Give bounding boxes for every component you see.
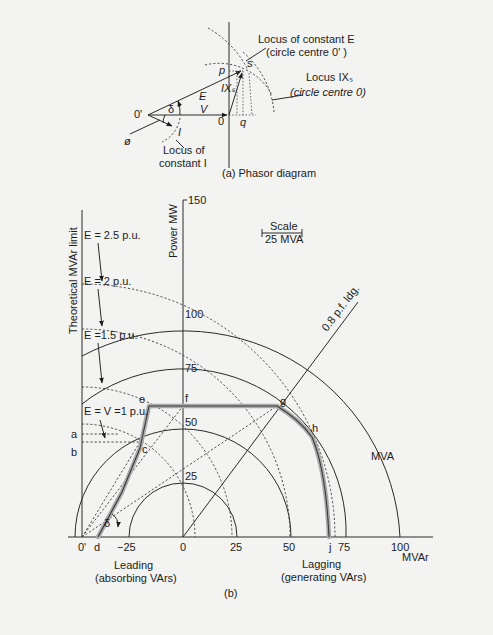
theoretical-limit-label: Theoretical MVAr limit xyxy=(67,227,79,334)
e-arrow-1.5 xyxy=(98,343,102,383)
e-arrow-2 xyxy=(98,289,102,326)
phasor-diagram: 0' 0 ø δ E V I IXₛ p q s Locus of consta… xyxy=(124,22,366,179)
label-e: E xyxy=(199,90,207,102)
label-v: V xyxy=(200,103,209,115)
y-axis-label: Power MW xyxy=(167,204,179,258)
caption-a: (a) Phasor diagram xyxy=(222,167,316,179)
mva-label: MVA xyxy=(371,450,395,462)
mva-circle-100 xyxy=(82,331,400,537)
point-a: a xyxy=(71,428,78,440)
delta-arc-b xyxy=(112,514,118,527)
x-tick-minus25: −25 xyxy=(117,541,136,553)
e-label-2.5: E = 2.5 p.u. xyxy=(84,229,141,241)
e-label-1: E = V =1 p.u. xyxy=(84,405,148,417)
locus-i-label-2: constant I xyxy=(159,157,207,169)
point-g: g xyxy=(280,395,286,407)
caption-b: (b) xyxy=(224,587,237,599)
delta-label-b: δ xyxy=(104,517,110,529)
e-locus-1pu xyxy=(82,424,195,537)
leading-label: Leading xyxy=(114,559,153,571)
x-tick-25: 25 xyxy=(230,541,242,553)
x-tick-j: j xyxy=(328,541,331,553)
y-tick-150: 150 xyxy=(188,194,206,206)
locus-ixs-label-2: (circle centre 0) xyxy=(290,86,366,98)
locus-ixs-arc-inner xyxy=(205,63,272,95)
capability-chart: δ E = 2.5 p.u. E = 2 p.u. E =1.5 p.u. E … xyxy=(67,194,433,599)
x-tick-d: d xyxy=(94,541,100,553)
point-c: c xyxy=(142,443,148,455)
x-unit-label: MVAr xyxy=(402,551,429,563)
y-tick-50: 50 xyxy=(185,416,197,428)
lagging-sub-label: (generating VArs) xyxy=(281,571,366,583)
x-tick-50: 50 xyxy=(283,541,295,553)
phi-line xyxy=(130,120,160,134)
mva-circle-75 xyxy=(82,369,346,537)
figure-canvas: 0' 0 ø δ E V I IXₛ p q s Locus of consta… xyxy=(0,0,493,635)
locus-e-label-2: (circle centre 0' ) xyxy=(266,46,347,58)
label-q: q xyxy=(240,116,247,128)
y-tick-25: 25 xyxy=(185,470,197,482)
ixs-phasor xyxy=(229,73,242,115)
y-tick-100: 100 xyxy=(185,308,203,320)
x-tick-75: 75 xyxy=(338,541,350,553)
e-label-2: E = 2 p.u. xyxy=(84,275,131,287)
scale-label-bottom: 25 MVA xyxy=(265,233,304,245)
label-s: s xyxy=(247,57,253,69)
label-origin: 0 xyxy=(218,115,224,127)
dashed-0prime-to-g xyxy=(82,406,277,537)
dotted-guide xyxy=(249,73,252,115)
point-f: f xyxy=(185,392,189,404)
locus-ixs-label-1: Locus IXₛ xyxy=(306,71,353,83)
locus-i-label-1: Locus of xyxy=(163,144,206,156)
point-e: e xyxy=(139,393,145,405)
x-tick-0prime: 0' xyxy=(78,541,86,553)
leading-sub-label: (absorbing VArs) xyxy=(95,572,177,584)
label-delta: δ xyxy=(168,103,174,115)
label-phi: ø xyxy=(124,135,131,147)
e-arrow-1 xyxy=(100,420,105,438)
x-tick-0: 0 xyxy=(180,541,186,553)
point-h: h xyxy=(312,422,318,434)
delta-arc xyxy=(178,101,180,115)
label-ixs: IXₛ xyxy=(221,82,236,94)
lagging-label: Lagging xyxy=(302,558,341,570)
e-label-1.5: E =1.5 p.u. xyxy=(84,329,138,341)
figure-svg: 0' 0 ø δ E V I IXₛ p q s Locus of consta… xyxy=(0,0,493,635)
point-b: b xyxy=(71,446,77,458)
locus-e-label-1: Locus of constant E xyxy=(258,33,355,45)
y-tick-75: 75 xyxy=(185,362,197,374)
pf-0.8-line xyxy=(183,302,358,537)
label-origin-prime: 0' xyxy=(134,108,142,120)
scale-label-top: Scale xyxy=(270,220,298,232)
label-p: p xyxy=(218,64,225,76)
label-i: I xyxy=(178,126,181,138)
